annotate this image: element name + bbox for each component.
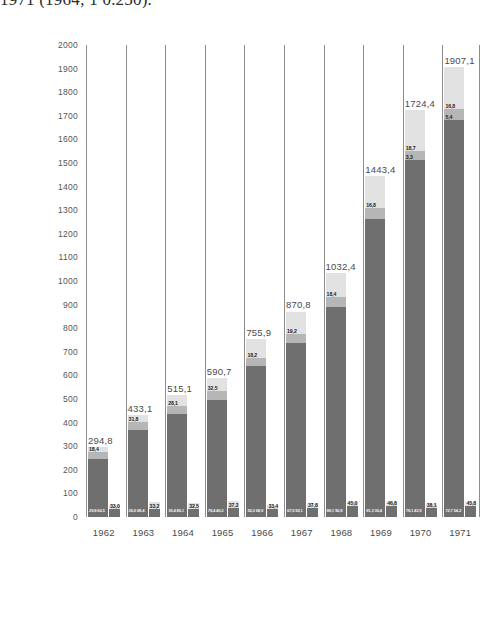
segment-label-inland-1963: 33,2 <box>150 503 160 509</box>
bar-segment-inland-1970 <box>426 508 437 517</box>
y-axis-tick: 800 <box>30 323 78 333</box>
bar-segment-motorrder-1964 <box>167 406 187 414</box>
segment-label-ausland-1964: 28,1 <box>168 400 178 406</box>
bar-chart: 2000190018001700160015001400130012001100… <box>0 0 489 555</box>
y-axis-tick: 300 <box>30 441 78 451</box>
bar-total-label-1971: 1907,1 <box>444 55 474 66</box>
bar-segment-automobile-1966 <box>246 366 266 517</box>
x-axis-label-1964: 1964 <box>163 527 203 538</box>
bar-segment-automobile-1963 <box>128 430 148 517</box>
y-axis-tick: 1200 <box>30 229 78 239</box>
bar-segment-motorrder-1966 <box>246 358 266 366</box>
segment-label-inland-1964: 32,5 <box>189 503 199 509</box>
y-axis-tick: 100 <box>30 488 78 498</box>
segment-baseline-label-1971: 72,7 54,2 <box>445 508 461 513</box>
bar-total-label-1965: 590,7 <box>207 366 232 377</box>
bar-main-1964[interactable] <box>167 395 187 517</box>
segment-baseline-label-1970: 78,1 43,9 <box>406 508 422 513</box>
segment-baseline-label-1968: 88,1 90,8 <box>327 508 343 513</box>
bar-main-1966[interactable] <box>246 339 266 517</box>
bar-group: 1443,416,846,881,3 36,4 <box>361 45 401 517</box>
y-axis-tick: 700 <box>30 347 78 357</box>
bar-main-1970[interactable] <box>405 110 425 517</box>
x-axis-label-1970: 1970 <box>401 527 441 538</box>
bar-group: 1032,418,445,088,1 90,8 <box>322 45 362 517</box>
bar-total-label-1963: 433,1 <box>128 403 153 414</box>
segment-label-inland-1968: 45,0 <box>348 500 358 506</box>
x-axis-label-1967: 1967 <box>282 527 322 538</box>
bar-segment-automobile-1970 <box>405 160 425 517</box>
plot-area: 294,818,433,029,8 66,5433,131,833,226,0 … <box>84 45 480 517</box>
bar-main-1963[interactable] <box>128 415 148 517</box>
bar-segment-automobile-1964 <box>167 414 187 517</box>
bar-main-1967[interactable] <box>286 312 306 517</box>
y-axis-tick: 1000 <box>30 276 78 286</box>
bar-segment-inland-1971 <box>465 506 476 517</box>
bar-segment-inland-1964 <box>188 509 199 517</box>
y-axis-tick: 1500 <box>30 158 78 168</box>
bar-segment-motorrder-1963 <box>128 422 148 430</box>
bar-total-label-1968: 1032,4 <box>326 261 356 272</box>
segment-sub-label-1970: 3,3 <box>406 154 413 160</box>
bar-segment-inland-1969 <box>386 506 397 517</box>
bar-total-label-1967: 870,8 <box>286 299 311 310</box>
bar-segment-inland-1968 <box>347 506 358 517</box>
y-axis-tick: 1600 <box>30 134 78 144</box>
x-axis-label-1965: 1965 <box>203 527 243 538</box>
segment-baseline-label-1965: 78,4 40,2 <box>208 508 224 513</box>
bar-total-label-1970: 1724,4 <box>405 98 435 109</box>
bar-segment-automobile-1971 <box>444 120 464 517</box>
bar-group: 1724,418,73,338,178,1 43,9 <box>401 45 441 517</box>
bar-group: 870,819,237,867,5 92,1 <box>282 45 322 517</box>
bar-segment-inland-1965 <box>228 508 239 517</box>
x-axis-label-1966: 1966 <box>242 527 282 538</box>
bar-segment-motorrder-1967 <box>286 334 306 343</box>
bar-total-label-1964: 515,1 <box>167 383 192 394</box>
bar-main-1962[interactable] <box>88 447 108 517</box>
x-axis-label-1969: 1969 <box>361 527 401 538</box>
y-axis-tick: 900 <box>30 300 78 310</box>
chart-legend: ab 1968ohne Umsatzsteuer Automobile Moto… <box>0 556 489 622</box>
x-axis-label-1968: 1968 <box>322 527 362 538</box>
segment-label-ausland-1970: 18,7 <box>406 145 416 151</box>
bar-segment-motorrder-1968 <box>326 297 346 308</box>
y-axis-tick: 1900 <box>30 64 78 74</box>
bar-segment-inland-1962 <box>109 509 120 517</box>
y-axis-tick: 200 <box>30 465 78 475</box>
segment-label-ausland-1968: 18,4 <box>327 291 337 297</box>
segment-label-inland-1970: 38,1 <box>427 502 437 508</box>
segment-baseline-label-1969: 81,3 36,4 <box>366 508 382 513</box>
y-axis-tick: 1300 <box>30 205 78 215</box>
segment-label-ausland-1963: 31,8 <box>129 416 139 422</box>
y-axis-tick: 1100 <box>30 252 78 262</box>
y-axis-tick: 1400 <box>30 182 78 192</box>
bar-main-1969[interactable] <box>365 176 385 517</box>
segment-label-ausland-1965: 32,5 <box>208 385 218 391</box>
segment-label-inland-1965: 37,2 <box>229 502 239 508</box>
segment-label-inland-1967: 37,8 <box>308 502 318 508</box>
bar-group: 1907,116,85,445,872,7 54,2 <box>440 45 480 517</box>
segment-label-ausland-1971: 16,8 <box>445 103 455 109</box>
y-axis-tick: 0 <box>30 512 78 522</box>
bar-main-1968[interactable] <box>326 273 346 517</box>
segment-baseline-label-1963: 26,0 68,4 <box>129 508 145 513</box>
y-axis-tick: 600 <box>30 370 78 380</box>
bar-segment-automobile-1967 <box>286 343 306 517</box>
bar-group: 590,732,537,278,4 40,2 <box>203 45 243 517</box>
segment-baseline-label-1966: 55,3 68,9 <box>247 508 263 513</box>
bar-segment-motorrder-1965 <box>207 391 227 400</box>
segment-label-ausland-1969: 16,8 <box>366 202 376 208</box>
y-axis-tick: 400 <box>30 418 78 428</box>
y-axis-tick: 1800 <box>30 87 78 97</box>
segment-label-inland-1969: 46,8 <box>387 500 397 506</box>
bar-segment-motorrder-1969 <box>365 208 385 219</box>
bar-main-1971[interactable] <box>444 67 464 517</box>
group-separator-line <box>479 45 480 517</box>
bar-main-1965[interactable] <box>207 378 227 517</box>
bar-segment-automobile-1968 <box>326 307 346 517</box>
y-axis: 2000190018001700160015001400130012001100… <box>22 45 78 517</box>
bar-total-label-1966: 755,9 <box>246 327 271 338</box>
segment-label-inland-1962: 33,0 <box>110 503 120 509</box>
bar-group: 433,131,833,226,0 68,4 <box>124 45 164 517</box>
segment-label-ausland-1967: 19,2 <box>287 328 297 334</box>
